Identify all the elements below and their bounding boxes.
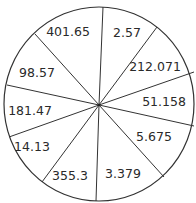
sector-label: 51.158 (142, 94, 186, 109)
sector-label: 14.13 (14, 139, 50, 154)
sector-label: 2.57 (113, 25, 141, 40)
sector-label: 98.57 (19, 65, 55, 80)
sector-label: 401.65 (46, 24, 90, 39)
sector-label: 181.47 (8, 103, 52, 118)
sector-label: 212.071 (129, 59, 181, 74)
sector-label: 5.675 (136, 129, 172, 144)
divided-circle-diagram: 2.57 212.071 51.158 5.675 3.379 355.3 14… (0, 0, 196, 203)
sector-label: 355.3 (52, 168, 88, 183)
center-point (98, 104, 101, 107)
sector-label: 3.379 (105, 166, 141, 181)
